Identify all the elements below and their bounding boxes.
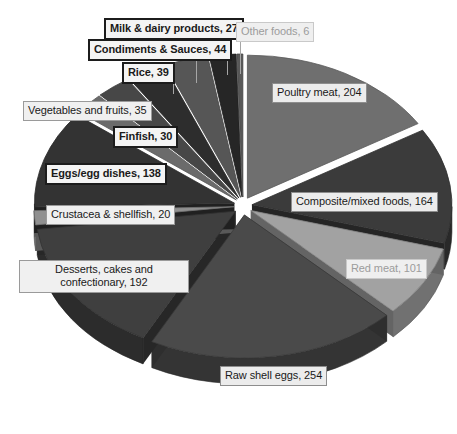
- label-other-foods[interactable]: Other foods, 6: [236, 22, 314, 42]
- label-vegetables-and-fruits[interactable]: Vegetables and fruits, 35: [23, 101, 152, 121]
- label-composite-mixed-foods[interactable]: Composite/mixed foods, 164: [291, 192, 438, 212]
- label-raw-shell-eggs[interactable]: Raw shell eggs, 254: [220, 366, 327, 386]
- label-poultry-meat[interactable]: Poultry meat, 204: [272, 83, 367, 103]
- label-desserts-cakes-confectionary[interactable]: Desserts, cakes and confectionary, 192: [19, 260, 189, 293]
- label-rice[interactable]: Rice, 39: [122, 62, 175, 84]
- label-eggs-egg-dishes[interactable]: Eggs/egg dishes, 138: [45, 163, 167, 185]
- label-condiments-sauces[interactable]: Condiments & Sauces, 44: [88, 39, 232, 61]
- label-milk-dairy-products[interactable]: Milk & dairy products, 27: [104, 18, 244, 40]
- label-red-meat[interactable]: Red meat, 101: [346, 259, 427, 279]
- label-crustacea-shellfish[interactable]: Crustacea & shellfish, 20: [46, 205, 175, 225]
- label-finfish[interactable]: Finfish, 30: [113, 126, 178, 148]
- pie-chart: Poultry meat, 204Composite/mixed foods, …: [0, 0, 457, 434]
- leader-line-other-foods: [240, 42, 241, 74]
